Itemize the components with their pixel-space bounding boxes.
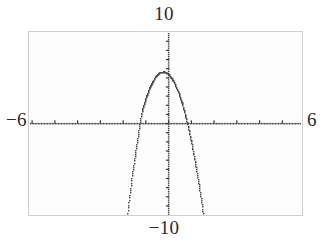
y-axis <box>166 33 170 215</box>
x-axis-max-label: 6 <box>307 110 317 129</box>
x-axis <box>30 120 301 124</box>
plot-canvas <box>29 32 302 215</box>
parabola-curve <box>127 71 204 214</box>
plot-area <box>28 31 303 216</box>
y-axis-max-label: 10 <box>0 4 328 23</box>
graph-figure: 10 −10 −6 6 <box>0 0 328 244</box>
y-axis-min-label: −10 <box>0 218 328 237</box>
x-axis-min-label: −6 <box>6 110 27 129</box>
